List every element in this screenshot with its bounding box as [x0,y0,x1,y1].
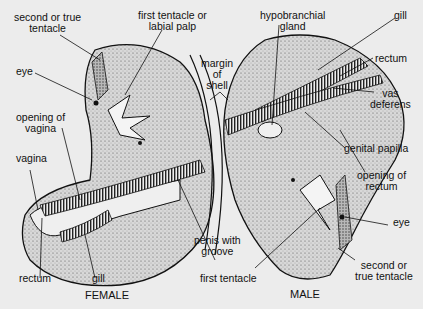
label-line: groove [194,246,241,257]
caption-male: MALE [290,288,320,300]
label-male-hypobranchial-gland: hypobranchial gland [260,10,325,32]
label-female-second-tentacle: second or true tentacle [14,12,81,34]
label-penis-with-groove: penis with groove [194,235,241,257]
label-male-opening-rectum: opening of rectum [357,170,406,192]
label-line: shell [201,80,233,91]
label-line: true tentacle [355,271,413,282]
label-male-vas-deferens: vas deferens [370,88,411,110]
label-line: vagina [16,123,65,134]
label-female-gill: gill [92,273,105,284]
label-line: rectum [357,181,406,192]
label-line: labial palp [138,21,207,32]
label-male-genital-papilla: genital papilla [344,143,408,154]
label-line: tentacle [14,23,81,34]
label-female-opening-vagina: opening of vagina [16,112,65,134]
label-male-gill: gill [394,10,407,21]
label-female-rectum: rectum [19,273,51,284]
label-male-rectum: rectum [375,53,407,64]
label-female-eye: eye [16,66,33,77]
label-line: gland [260,21,325,32]
label-margin-of-shell: margin of shell [201,58,233,91]
label-female-first-tentacle: first tentacle or labial palp [138,10,207,32]
label-female-vagina: vagina [16,153,47,164]
label-male-second-tentacle: second or true tentacle [355,260,413,282]
male-animal [224,35,404,279]
label-male-eye: eye [393,217,410,228]
label-male-first-tentacle: first tentacle [200,273,257,284]
caption-female: FEMALE [85,289,129,301]
label-line: deferens [370,99,411,110]
